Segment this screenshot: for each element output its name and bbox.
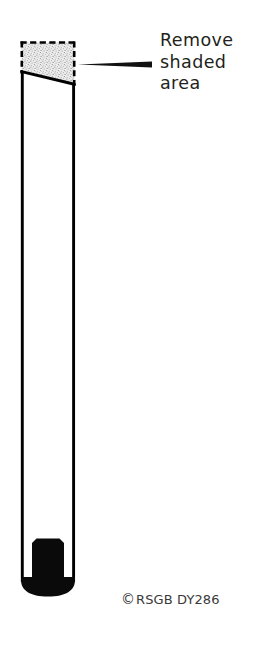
copyright-text: RSGB DY286 — [136, 592, 219, 607]
copyright-symbol-icon: © — [121, 592, 135, 607]
callout-line-1: Remove — [160, 30, 254, 52]
black-plug — [32, 539, 64, 580]
technical-drawing — [0, 0, 254, 647]
tube-body — [22, 72, 75, 585]
callout-pointer-icon — [78, 62, 152, 68]
callout-label: Remove shaded area — [160, 30, 254, 95]
copyright-credit: © RSGB DY286 — [121, 592, 220, 607]
callout-line-2: shaded — [160, 52, 254, 74]
tube-base — [21, 577, 75, 597]
callout-line-3: area — [160, 73, 254, 95]
diagram-canvas: Remove shaded area © RSGB DY286 — [0, 0, 254, 647]
